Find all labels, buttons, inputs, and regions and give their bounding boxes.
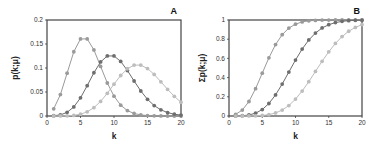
y-tick-label: 0.2 (34, 16, 43, 23)
data-point (274, 43, 278, 47)
data-point (92, 71, 96, 75)
data-point (132, 63, 136, 67)
data-point (79, 96, 83, 100)
y-tick-label: 0.2 (216, 93, 225, 100)
x-tick-label: 20 (177, 119, 185, 126)
data-point (152, 73, 156, 77)
series-10 (52, 54, 183, 118)
x-tick-label: 15 (325, 119, 333, 126)
x-axis-label: k (293, 131, 298, 141)
data-point (72, 105, 76, 109)
data-point (294, 22, 298, 26)
data-point (126, 109, 130, 113)
data-point (247, 114, 251, 118)
data-point (247, 100, 251, 104)
data-point (334, 21, 338, 25)
data-point (112, 94, 116, 98)
data-point (92, 48, 96, 52)
data-point (327, 23, 331, 27)
data-point (340, 35, 344, 39)
data-point (320, 18, 324, 22)
data-point (179, 113, 183, 117)
y-tick-label: 0.05 (30, 88, 43, 95)
series-line (236, 20, 362, 114)
data-point (300, 47, 304, 51)
data-point (274, 111, 278, 115)
y-axis-label: Σp(k;μ) (197, 53, 207, 82)
data-point (152, 114, 156, 118)
x-tick-label: 0 (227, 119, 231, 126)
plot-frame (47, 20, 181, 116)
data-point (139, 113, 143, 117)
data-point (307, 38, 311, 42)
data-point (112, 54, 116, 58)
data-point (314, 31, 318, 35)
y-tick-label: 0.4 (216, 74, 225, 81)
data-point (85, 37, 89, 41)
y-tick-label: 0.1 (34, 64, 43, 71)
data-point (159, 114, 163, 118)
chart-panel-a: 00.050.10.150.205101520kp(k;μ)A (10, 6, 185, 141)
data-point (267, 113, 271, 117)
data-point (254, 87, 258, 91)
x-tick-label: 0 (45, 119, 49, 126)
data-point (105, 81, 109, 85)
data-point (240, 114, 244, 118)
y-tick-label: 0.6 (216, 55, 225, 62)
data-point (79, 112, 83, 116)
data-point (360, 18, 364, 22)
data-point (65, 71, 69, 75)
data-point (267, 102, 271, 106)
data-point (353, 18, 357, 22)
series-6 (52, 37, 183, 118)
data-point (280, 82, 284, 86)
data-point (260, 114, 264, 118)
data-point (119, 103, 123, 107)
data-point (287, 26, 291, 30)
data-point (307, 80, 311, 84)
data-point (260, 108, 264, 112)
data-point (287, 70, 291, 74)
y-axis-label: p(k;μ) (10, 56, 20, 80)
x-tick-label: 20 (358, 119, 366, 126)
data-point (320, 59, 324, 63)
data-point (327, 18, 331, 22)
data-point (274, 93, 278, 97)
data-point (119, 74, 123, 78)
data-point (347, 19, 351, 23)
data-point (166, 88, 170, 92)
data-point (112, 82, 116, 86)
data-point (294, 97, 298, 101)
data-point (260, 71, 264, 75)
data-point (280, 108, 284, 112)
data-point (126, 67, 130, 71)
series-line (236, 25, 362, 116)
data-point (99, 60, 103, 64)
data-point (300, 89, 304, 93)
data-point (172, 94, 176, 98)
data-point (179, 100, 183, 104)
x-tick-label: 5 (260, 119, 264, 126)
data-point (152, 104, 156, 108)
data-point (166, 111, 170, 115)
y-tick-label: 0 (39, 112, 43, 119)
x-tick-label: 15 (144, 119, 152, 126)
data-point (159, 108, 163, 112)
y-tick-label: 0.15 (30, 40, 43, 47)
data-point (314, 18, 318, 22)
data-point (159, 80, 163, 84)
data-point (294, 58, 298, 62)
data-point (166, 114, 170, 118)
y-tick-label: 0.8 (216, 35, 225, 42)
x-axis-label: k (112, 131, 117, 141)
data-point (172, 112, 176, 116)
data-point (105, 91, 109, 95)
series-14 (234, 23, 364, 118)
data-point (320, 26, 324, 30)
data-point (59, 93, 63, 97)
data-point (99, 65, 103, 69)
data-point (360, 23, 364, 27)
series-line (236, 20, 362, 116)
data-point (85, 110, 89, 114)
data-point (327, 50, 331, 54)
